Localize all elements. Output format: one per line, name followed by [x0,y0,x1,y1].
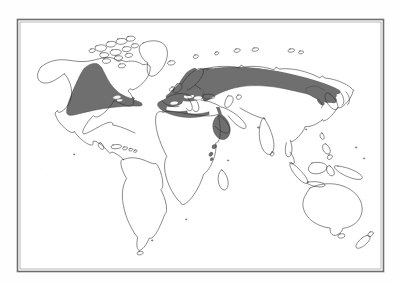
world-map [0,0,399,283]
caption-ghost [66,272,146,281]
figure-container [0,0,399,283]
map-frame [18,20,384,272]
